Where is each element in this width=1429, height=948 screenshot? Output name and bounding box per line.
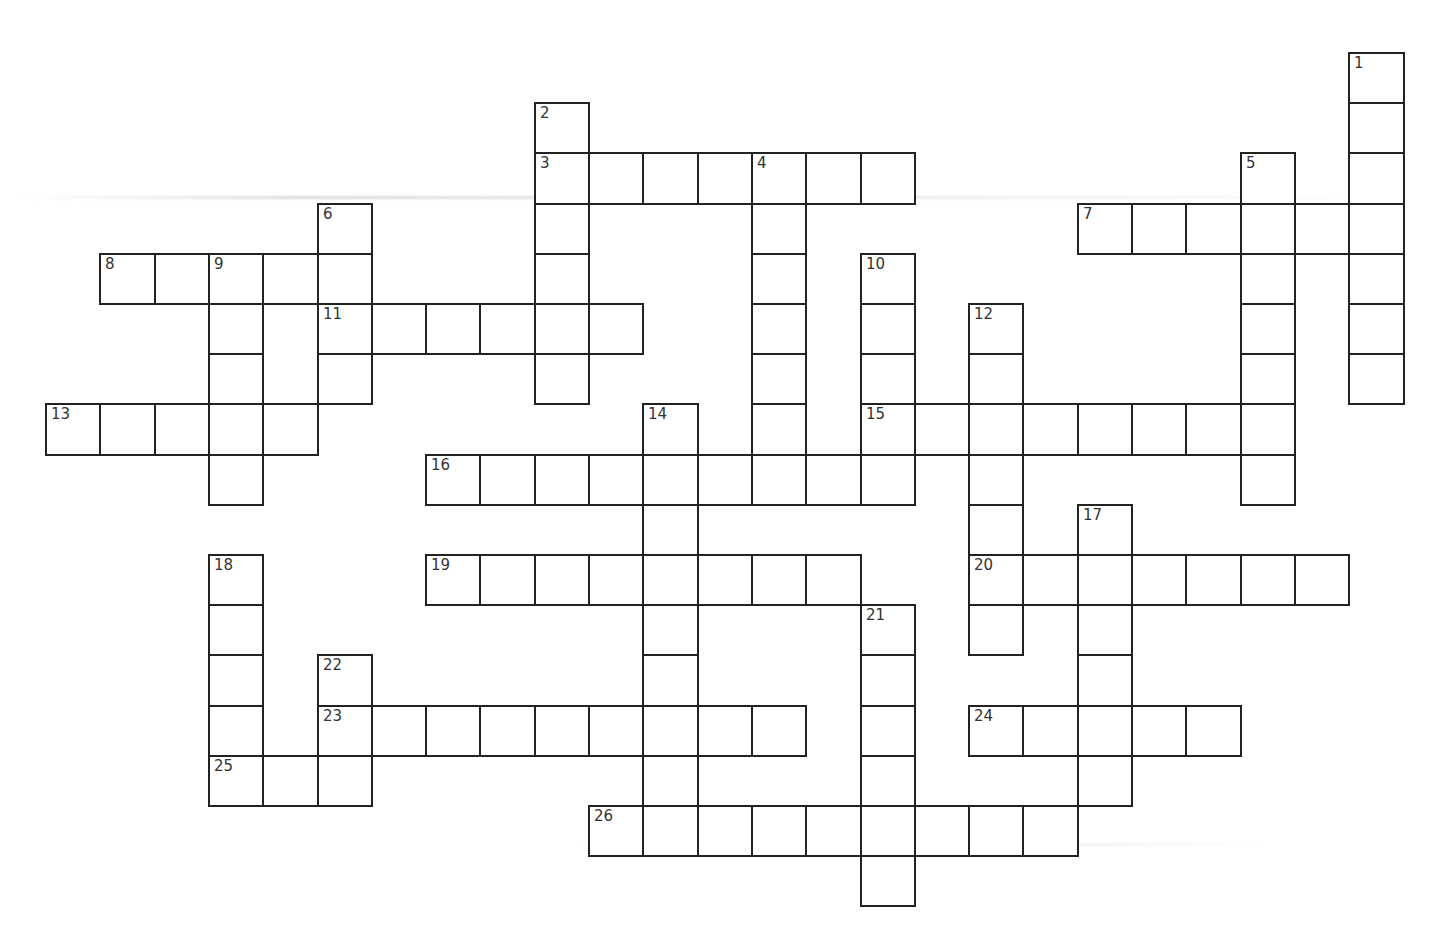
cell-letter-input[interactable] xyxy=(644,456,697,504)
crossword-cell[interactable] xyxy=(371,303,427,355)
crossword-cell[interactable] xyxy=(968,604,1024,656)
cell-letter-input[interactable] xyxy=(862,456,914,504)
cell-letter-input[interactable] xyxy=(862,255,914,303)
crossword-cell[interactable] xyxy=(697,705,753,757)
crossword-cell[interactable] xyxy=(1240,253,1296,305)
crossword-cell[interactable]: 12 xyxy=(968,303,1024,355)
crossword-cell[interactable] xyxy=(1022,554,1079,606)
cell-letter-input[interactable] xyxy=(862,154,914,203)
cell-letter-input[interactable] xyxy=(536,205,588,253)
cell-letter-input[interactable] xyxy=(1079,506,1131,554)
cell-letter-input[interactable] xyxy=(807,807,860,855)
cell-letter-input[interactable] xyxy=(862,857,914,905)
crossword-cell[interactable]: 17 xyxy=(1077,504,1133,556)
cell-letter-input[interactable] xyxy=(536,305,588,353)
cell-letter-input[interactable] xyxy=(699,707,751,755)
cell-letter-input[interactable] xyxy=(427,556,479,604)
crossword-cell[interactable] xyxy=(1077,755,1133,807)
cell-letter-input[interactable] xyxy=(536,707,588,755)
crossword-cell[interactable] xyxy=(208,454,264,506)
crossword-cell[interactable] xyxy=(642,454,699,506)
cell-letter-input[interactable] xyxy=(1133,405,1185,454)
crossword-cell[interactable] xyxy=(860,152,916,205)
crossword-cell[interactable] xyxy=(1240,403,1296,456)
crossword-cell[interactable] xyxy=(860,454,916,506)
crossword-cell[interactable]: 7 xyxy=(1077,203,1133,255)
cell-letter-input[interactable] xyxy=(264,405,317,454)
crossword-cell[interactable] xyxy=(751,805,807,857)
crossword-cell[interactable] xyxy=(1077,604,1133,656)
cell-letter-input[interactable] xyxy=(319,757,371,805)
cell-letter-input[interactable] xyxy=(807,556,860,604)
cell-letter-input[interactable] xyxy=(970,556,1022,604)
cell-letter-input[interactable] xyxy=(916,807,968,855)
cell-letter-input[interactable] xyxy=(916,405,968,454)
cell-letter-input[interactable] xyxy=(1242,405,1294,454)
cell-letter-input[interactable] xyxy=(862,807,914,855)
crossword-cell[interactable] xyxy=(534,303,590,355)
crossword-cell[interactable]: 13 xyxy=(45,403,101,456)
crossword-cell[interactable] xyxy=(262,403,319,456)
cell-letter-input[interactable] xyxy=(862,405,914,454)
crossword-cell[interactable] xyxy=(805,454,862,506)
cell-letter-input[interactable] xyxy=(1079,405,1131,454)
crossword-cell[interactable] xyxy=(588,554,644,606)
crossword-cell[interactable] xyxy=(968,454,1024,506)
cell-letter-input[interactable] xyxy=(753,556,805,604)
crossword-cell[interactable] xyxy=(371,705,427,757)
crossword-cell[interactable] xyxy=(208,353,264,405)
cell-letter-input[interactable] xyxy=(1187,205,1240,253)
cell-letter-input[interactable] xyxy=(536,456,588,504)
crossword-cell[interactable] xyxy=(860,755,916,807)
crossword-cell[interactable] xyxy=(588,152,644,205)
crossword-cell[interactable] xyxy=(534,353,590,405)
cell-letter-input[interactable] xyxy=(1350,54,1403,102)
cell-letter-input[interactable] xyxy=(970,606,1022,654)
crossword-cell[interactable] xyxy=(1077,654,1133,707)
cell-letter-input[interactable] xyxy=(1350,205,1403,253)
cell-letter-input[interactable] xyxy=(1350,104,1403,152)
crossword-cell[interactable] xyxy=(805,152,862,205)
cell-letter-input[interactable] xyxy=(1133,205,1185,253)
cell-letter-input[interactable] xyxy=(644,506,697,554)
cell-letter-input[interactable] xyxy=(1024,556,1077,604)
crossword-cell[interactable] xyxy=(1131,705,1187,757)
crossword-cell[interactable] xyxy=(317,253,373,305)
cell-letter-input[interactable] xyxy=(1242,305,1294,353)
crossword-cell[interactable] xyxy=(697,554,753,606)
crossword-cell[interactable] xyxy=(1294,554,1350,606)
cell-letter-input[interactable] xyxy=(970,355,1022,403)
cell-letter-input[interactable] xyxy=(753,807,805,855)
crossword-cell[interactable] xyxy=(1022,805,1079,857)
crossword-cell[interactable] xyxy=(1348,353,1405,405)
crossword-cell[interactable] xyxy=(425,303,481,355)
crossword-cell[interactable] xyxy=(805,805,862,857)
cell-letter-input[interactable] xyxy=(753,456,805,504)
crossword-cell[interactable] xyxy=(642,705,699,757)
cell-letter-input[interactable] xyxy=(753,305,805,353)
crossword-cell[interactable]: 1 xyxy=(1348,52,1405,104)
crossword-cell[interactable] xyxy=(1077,554,1133,606)
cell-letter-input[interactable] xyxy=(644,606,697,654)
cell-letter-input[interactable] xyxy=(590,305,642,353)
cell-letter-input[interactable] xyxy=(644,757,697,805)
cell-letter-input[interactable] xyxy=(1187,556,1240,604)
crossword-cell[interactable] xyxy=(1348,303,1405,355)
crossword-cell[interactable] xyxy=(751,454,807,506)
crossword-cell[interactable] xyxy=(642,805,699,857)
crossword-cell[interactable] xyxy=(99,403,156,456)
crossword-cell[interactable] xyxy=(1348,253,1405,305)
cell-letter-input[interactable] xyxy=(1024,707,1077,755)
cell-letter-input[interactable] xyxy=(590,456,642,504)
crossword-cell[interactable] xyxy=(751,554,807,606)
crossword-cell[interactable]: 10 xyxy=(860,253,916,305)
cell-letter-input[interactable] xyxy=(862,656,914,705)
cell-letter-input[interactable] xyxy=(644,656,697,705)
crossword-cell[interactable] xyxy=(1185,203,1242,255)
cell-letter-input[interactable] xyxy=(1296,205,1348,253)
cell-letter-input[interactable] xyxy=(210,707,262,755)
crossword-cell[interactable] xyxy=(208,604,264,656)
crossword-cell[interactable] xyxy=(534,454,590,506)
cell-letter-input[interactable] xyxy=(1133,556,1185,604)
cell-letter-input[interactable] xyxy=(970,405,1022,454)
